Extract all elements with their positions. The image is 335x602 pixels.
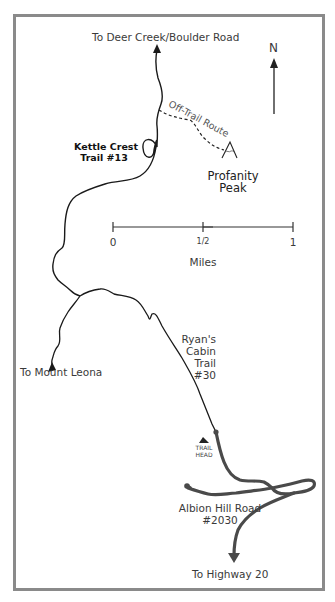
trail-arrow-north-icon (153, 44, 161, 53)
trail-map-drawing (0, 0, 335, 602)
trailhead-triangle-icon (199, 437, 209, 443)
label-albion-hill-road: Albion Hill Road #2030 (170, 502, 270, 526)
scale-unit: Miles (180, 256, 226, 268)
kettle-crest-trail (53, 50, 163, 296)
label-mount-leona: To Mount Leona (20, 366, 102, 378)
label-north: N (269, 42, 278, 54)
road-end-dot (184, 483, 190, 489)
label-deer-creek: To Deer Creek/Boulder Road (92, 31, 239, 43)
scale-tick-0: 0 (106, 236, 120, 248)
label-ryans-cabin: Ryan's Cabin Trail #30 (170, 333, 216, 381)
label-profanity-peak: Profanity Peak (205, 170, 261, 194)
scale-bar (113, 222, 293, 232)
scale-tick-half: 1/2 (194, 236, 212, 248)
highway-arrow-icon (228, 553, 240, 563)
label-trailhead: TRAIL HEAD (192, 445, 216, 458)
scale-tick-1: 1 (286, 236, 300, 248)
label-highway-20: To Highway 20 (192, 568, 268, 580)
mount-leona-trail (52, 296, 80, 368)
mountain-peak-icon (222, 142, 237, 158)
north-arrow-icon (270, 58, 278, 114)
label-kettle-crest: Kettle Crest Trail #13 (74, 141, 134, 163)
